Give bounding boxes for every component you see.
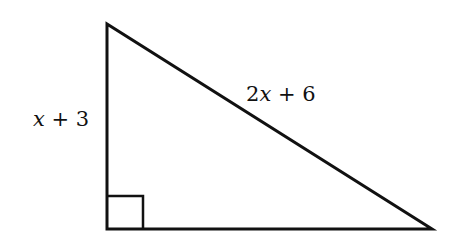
vertical-leg-label: x + 3 — [33, 107, 89, 131]
right-angle-marker — [107, 196, 143, 229]
right-triangle — [107, 24, 432, 229]
triangle-diagram: x + 3 2x + 6 — [0, 0, 462, 243]
hypotenuse-label: 2x + 6 — [246, 82, 316, 106]
